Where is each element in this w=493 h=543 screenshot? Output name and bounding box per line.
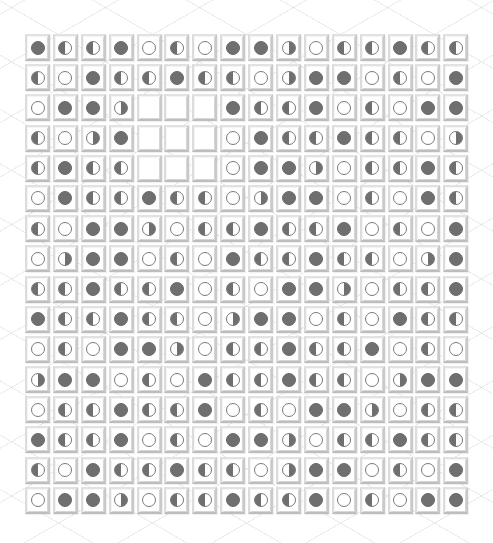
board-tile[interactable] bbox=[25, 155, 50, 182]
board-tile[interactable] bbox=[248, 155, 273, 182]
board-tile[interactable] bbox=[332, 155, 357, 182]
board-tile[interactable] bbox=[332, 34, 357, 61]
board-tile[interactable] bbox=[109, 185, 134, 212]
board-tile[interactable] bbox=[53, 215, 78, 242]
board-tile[interactable] bbox=[220, 155, 245, 182]
board-tile[interactable] bbox=[81, 215, 106, 242]
board-tile[interactable] bbox=[360, 366, 385, 393]
board-tile[interactable] bbox=[25, 94, 50, 121]
board-tile[interactable] bbox=[137, 155, 162, 182]
board-tile[interactable] bbox=[220, 64, 245, 91]
board-tile[interactable] bbox=[109, 94, 134, 121]
board-tile[interactable] bbox=[164, 457, 189, 484]
board-tile[interactable] bbox=[109, 215, 134, 242]
board-tile[interactable] bbox=[360, 276, 385, 303]
board-tile[interactable] bbox=[388, 125, 413, 152]
board-tile[interactable] bbox=[304, 336, 329, 363]
board-tile[interactable] bbox=[137, 306, 162, 333]
board-tile[interactable] bbox=[192, 457, 217, 484]
board-tile[interactable] bbox=[276, 396, 301, 423]
board-tile[interactable] bbox=[220, 34, 245, 61]
board-tile[interactable] bbox=[164, 94, 189, 121]
board-tile[interactable] bbox=[220, 396, 245, 423]
board-tile[interactable] bbox=[304, 185, 329, 212]
board-tile[interactable] bbox=[220, 426, 245, 453]
board-tile[interactable] bbox=[25, 487, 50, 514]
board-tile[interactable] bbox=[276, 487, 301, 514]
board-tile[interactable] bbox=[109, 366, 134, 393]
board-tile[interactable] bbox=[248, 125, 273, 152]
board-tile[interactable] bbox=[248, 426, 273, 453]
board-tile[interactable] bbox=[304, 457, 329, 484]
board-tile[interactable] bbox=[332, 94, 357, 121]
board-tile[interactable] bbox=[137, 396, 162, 423]
board-tile[interactable] bbox=[192, 215, 217, 242]
board-tile[interactable] bbox=[81, 396, 106, 423]
board-tile[interactable] bbox=[360, 245, 385, 272]
board-tile[interactable] bbox=[360, 125, 385, 152]
board-tile[interactable] bbox=[360, 487, 385, 514]
board-tile[interactable] bbox=[164, 426, 189, 453]
board-tile[interactable] bbox=[360, 94, 385, 121]
board-tile[interactable] bbox=[248, 306, 273, 333]
board-tile[interactable] bbox=[304, 245, 329, 272]
board-tile[interactable] bbox=[415, 366, 440, 393]
board-tile[interactable] bbox=[332, 215, 357, 242]
board-tile[interactable] bbox=[192, 306, 217, 333]
board-tile[interactable] bbox=[81, 276, 106, 303]
board-tile[interactable] bbox=[81, 245, 106, 272]
board-tile[interactable] bbox=[25, 366, 50, 393]
board-tile[interactable] bbox=[276, 34, 301, 61]
board-tile[interactable] bbox=[388, 94, 413, 121]
board-tile[interactable] bbox=[415, 34, 440, 61]
board-tile[interactable] bbox=[415, 125, 440, 152]
board-tile[interactable] bbox=[360, 396, 385, 423]
board-tile[interactable] bbox=[332, 125, 357, 152]
board-tile[interactable] bbox=[109, 125, 134, 152]
board-tile[interactable] bbox=[332, 336, 357, 363]
board-tile[interactable] bbox=[53, 64, 78, 91]
board-tile[interactable] bbox=[137, 276, 162, 303]
board-tile[interactable] bbox=[248, 366, 273, 393]
board-tile[interactable] bbox=[192, 487, 217, 514]
board-tile[interactable] bbox=[192, 366, 217, 393]
board-tile[interactable] bbox=[81, 185, 106, 212]
board-tile[interactable] bbox=[192, 426, 217, 453]
board-tile[interactable] bbox=[276, 185, 301, 212]
board-tile[interactable] bbox=[388, 155, 413, 182]
board-tile[interactable] bbox=[53, 245, 78, 272]
board-tile[interactable] bbox=[81, 336, 106, 363]
board-tile[interactable] bbox=[81, 487, 106, 514]
board-tile[interactable] bbox=[137, 245, 162, 272]
board-tile[interactable] bbox=[388, 215, 413, 242]
board-tile[interactable] bbox=[81, 34, 106, 61]
board-tile[interactable] bbox=[304, 306, 329, 333]
board-tile[interactable] bbox=[25, 125, 50, 152]
board-tile[interactable] bbox=[443, 487, 468, 514]
board-tile[interactable] bbox=[443, 426, 468, 453]
board-tile[interactable] bbox=[53, 336, 78, 363]
board-tile[interactable] bbox=[443, 34, 468, 61]
board-tile[interactable] bbox=[109, 487, 134, 514]
board-tile[interactable] bbox=[304, 215, 329, 242]
board-tile[interactable] bbox=[332, 457, 357, 484]
board-tile[interactable] bbox=[109, 457, 134, 484]
board-tile[interactable] bbox=[276, 366, 301, 393]
board-tile[interactable] bbox=[276, 215, 301, 242]
board-tile[interactable] bbox=[109, 396, 134, 423]
board-tile[interactable] bbox=[137, 94, 162, 121]
board-tile[interactable] bbox=[164, 336, 189, 363]
board-tile[interactable] bbox=[220, 336, 245, 363]
board-tile[interactable] bbox=[53, 306, 78, 333]
board-tile[interactable] bbox=[164, 64, 189, 91]
board-tile[interactable] bbox=[192, 155, 217, 182]
board-tile[interactable] bbox=[248, 276, 273, 303]
board-tile[interactable] bbox=[276, 306, 301, 333]
board-tile[interactable] bbox=[248, 185, 273, 212]
board-tile[interactable] bbox=[137, 215, 162, 242]
board-tile[interactable] bbox=[360, 185, 385, 212]
board-tile[interactable] bbox=[304, 276, 329, 303]
board-tile[interactable] bbox=[332, 64, 357, 91]
board-tile[interactable] bbox=[220, 185, 245, 212]
board-tile[interactable] bbox=[360, 426, 385, 453]
